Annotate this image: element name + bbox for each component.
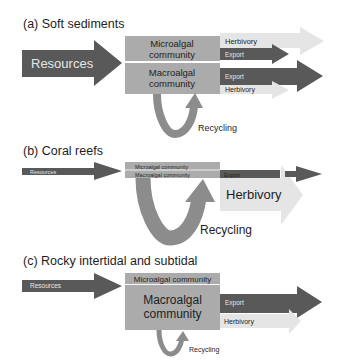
panel-b-herbivory-label: Herbivory [226, 187, 282, 202]
panel-a-recycling-arrow [157, 93, 203, 134]
panel-b-resources-arrow: Resources [22, 162, 122, 180]
panel-a-recycling-label: Recycling [198, 123, 237, 133]
panel-c-title: (c) Rocky intertidal and subtidal [23, 254, 197, 268]
panel-a-soft-sediments: (a) Soft sediments Resources Herbivory E… [22, 17, 324, 134]
panel-a-micro-label-2: community [149, 49, 195, 60]
panel-b-export-label: Export [224, 172, 240, 178]
recycling-loop [159, 330, 182, 354]
panel-a-micro-herbivory-label: Herbivory [225, 37, 257, 46]
recycling-arrowhead-icon [176, 331, 189, 341]
panel-c-rocky-intertidal: (c) Rocky intertidal and subtidal Resour… [22, 254, 322, 354]
panel-b-coral-reefs: (b) Coral reefs Resources Herbivory Expo… [22, 144, 322, 238]
recycling-loop [143, 178, 199, 238]
trophic-pathway-diagram: (a) Soft sediments Resources Herbivory E… [0, 0, 339, 361]
recycling-loop [157, 94, 194, 134]
recycling-arrowhead-icon [185, 179, 215, 202]
panel-a-macro-label-2: community [149, 78, 195, 89]
panel-c-resources-arrow: Resources [22, 273, 122, 299]
panel-a-macro-herbivory-label: Herbivory [225, 86, 255, 94]
panel-c-recycling-label: Recycling [189, 346, 219, 354]
resources-label: Resources [30, 169, 57, 175]
panel-a-macro-label-1: Macroalgal [149, 67, 195, 78]
panel-c-macro-label-2: community [143, 307, 201, 321]
panel-c-export-label: Export [225, 299, 244, 307]
panel-b-macro-label: Macroalgal community [135, 172, 190, 178]
panel-c-macro-label-1: Macroalgal [143, 293, 202, 307]
recycling-arrowhead-icon [185, 93, 203, 108]
panel-a-micro-label-1: Microalgal [150, 38, 193, 49]
resources-label: Resources [31, 56, 94, 71]
panel-c-recycling-arrow [159, 330, 189, 354]
panel-c-herbivory-label: Herbivory [224, 318, 254, 326]
resources-label: Resources [30, 282, 62, 289]
panel-b-recycling-label: Recycling [200, 223, 252, 237]
panel-c-micro-label: Microalgal community [134, 275, 211, 284]
panel-a-macro-export-label: Export [225, 73, 244, 81]
panel-b-micro-label: Microalgal community [135, 164, 188, 170]
panel-b-title: (b) Coral reefs [23, 144, 103, 158]
panel-a-title: (a) Soft sediments [23, 17, 124, 31]
panel-a-micro-export-label: Export [225, 51, 244, 59]
panel-a-resources-arrow: Resources [22, 40, 122, 86]
